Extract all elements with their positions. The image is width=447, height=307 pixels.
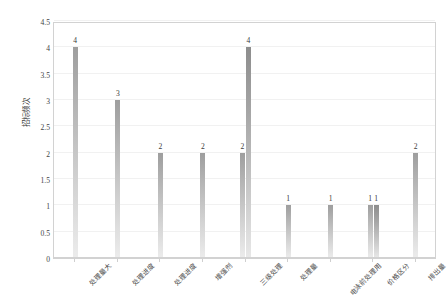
bar[interactable] [73,47,78,258]
y-axis-tick-labels: 00.511.522.533.544.5 [26,0,50,307]
x-tick-mark [287,259,288,262]
y-tick-label: 0.5 [41,228,51,237]
x-tick-label: 处理进度 [131,262,156,287]
y-tick-label: 1.5 [41,176,51,185]
bar-value-label: 2 [201,143,205,151]
y-tick-label: 4.5 [41,18,51,27]
bar-column[interactable]: 2 [240,23,245,258]
bar[interactable] [246,47,251,258]
y-tick-label: 2.5 [41,123,51,132]
x-tick-label: 处理进度 [174,262,199,287]
y-tick-label: 3.5 [41,70,51,79]
y-tick-label: 0 [46,255,50,264]
bar[interactable] [240,153,245,258]
bar-group: 24 [224,23,267,258]
x-tick-label: 处理量大 [88,262,113,287]
bar-group: 4 [54,23,97,258]
bar[interactable] [286,205,291,258]
x-tick-mark [372,259,373,262]
bar-group: 2 [394,23,437,258]
bar-column[interactable]: 1 [328,23,333,258]
x-tick-label: 增强剂 [214,262,234,282]
x-tick-label: 价格区分 [386,262,411,287]
bar-value-label: 1 [374,195,378,203]
bar-value-label: 1 [368,195,372,203]
bar-value-label: 1 [329,195,333,203]
x-tick-mark [117,259,118,262]
x-axis-baseline [54,257,435,258]
gridline [54,20,435,21]
bar[interactable] [374,205,379,258]
y-tick-label: 1 [46,202,50,211]
x-tick-label: 三级处理 [259,262,284,287]
bar-group: 2 [182,23,225,258]
bar-column[interactable]: 4 [246,23,251,258]
bar-value-label: 4 [73,37,77,45]
bar-value-label: 2 [414,143,418,151]
bar-value-label: 2 [241,143,245,151]
y-tick-label: 3 [46,97,50,106]
bar-group: 1 [309,23,352,258]
bar-chart: 招标频次 00.511.522.533.544.5 43222411112 处理… [0,0,447,307]
bar-column[interactable]: 4 [73,23,78,258]
bar-column[interactable]: 1 [286,23,291,258]
x-tick-label: 排出量 [427,262,447,282]
bar-column[interactable]: 2 [413,23,418,258]
y-tick-label: 4 [46,44,50,53]
bar-group: 11 [352,23,395,258]
bar-column[interactable]: 1 [368,23,373,258]
x-tick-mark [74,259,75,262]
bar-column[interactable]: 1 [374,23,379,258]
bar-value-label: 2 [158,143,162,151]
bar[interactable] [115,100,120,258]
x-tick-label: 电泳前处理用 [348,262,383,297]
bar-column[interactable]: 2 [158,23,163,258]
bar[interactable] [368,205,373,258]
x-tick-mark [415,259,416,262]
bar[interactable] [413,153,418,258]
bar-column[interactable]: 3 [115,23,120,258]
bar-group: 3 [97,23,140,258]
bar-group: 2 [139,23,182,258]
x-tick-mark [159,259,160,262]
bar-value-label: 4 [247,37,251,45]
x-tick-mark [330,259,331,262]
bars-layer: 43222411112 [54,23,435,258]
x-tick-mark [245,259,246,262]
x-axis-tick-labels: 处理量大处理进度处理进度增强剂三级处理处理量电泳前处理用价格区分排出量 [53,262,436,307]
bar-column[interactable]: 2 [200,23,205,258]
plot-area: 43222411112 [53,22,436,259]
bar-group: 1 [267,23,310,258]
bar-value-label: 1 [286,195,290,203]
bar[interactable] [158,153,163,258]
x-tick-label: 处理量 [299,262,319,282]
bar-value-label: 3 [116,90,120,98]
bar[interactable] [328,205,333,258]
y-tick-label: 2 [46,149,50,158]
bar[interactable] [200,153,205,258]
x-tick-mark [202,259,203,262]
